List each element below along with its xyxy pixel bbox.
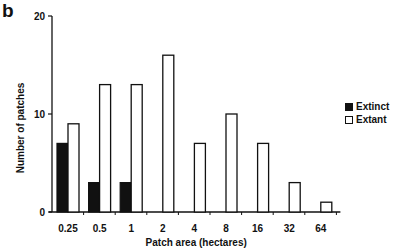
- extant-swatch-icon: [345, 116, 353, 124]
- y-axis-title: Number of patches: [15, 82, 26, 173]
- legend: Extinct Extant: [345, 100, 389, 126]
- x-tick-label: 4: [192, 223, 198, 234]
- y-tick-label: 0: [39, 207, 45, 218]
- legend-item-extant: Extant: [345, 113, 389, 126]
- bar-extant: [163, 55, 174, 212]
- bar-extant: [194, 143, 205, 212]
- y-tick-label: 20: [34, 11, 46, 22]
- bar-extant: [131, 85, 142, 212]
- x-tick-label: 2: [160, 223, 166, 234]
- x-tick-label: 1: [128, 223, 134, 234]
- y-tick-label: 10: [34, 109, 46, 120]
- x-tick-label: 8: [223, 223, 229, 234]
- bar-extant: [226, 114, 237, 212]
- x-tick-label: 0.5: [93, 223, 107, 234]
- legend-item-extinct: Extinct: [345, 100, 389, 113]
- bar-extant: [258, 143, 269, 212]
- legend-label-extant: Extant: [356, 114, 387, 125]
- bar-extant: [321, 202, 332, 212]
- bar-extinct: [120, 183, 131, 212]
- legend-label-extinct: Extinct: [356, 101, 389, 112]
- x-tick-label: 64: [315, 223, 327, 234]
- extinct-swatch-icon: [345, 103, 353, 111]
- x-axis-title: Patch area (hectares): [146, 237, 247, 248]
- x-tick-label: 16: [252, 223, 264, 234]
- bar-extinct: [57, 143, 68, 212]
- bar-extinct: [89, 183, 100, 212]
- x-tick-label: 0.25: [58, 223, 78, 234]
- x-tick-label: 32: [284, 223, 296, 234]
- bar-extant: [68, 124, 79, 212]
- bar-extant: [100, 85, 111, 212]
- bar-extant: [289, 183, 300, 212]
- bar-chart: 010200.250.51248163264Patch area (hectar…: [0, 0, 394, 252]
